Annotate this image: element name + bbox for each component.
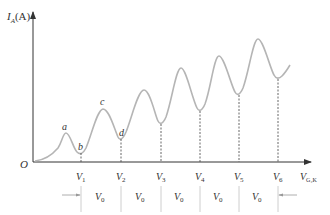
svg-text:V6: V6 bbox=[273, 171, 283, 184]
franck-hertz-chart: IA(A) O a b c d V1 V2 V3 V4 V5 V6 VG₂K bbox=[0, 0, 330, 215]
x-tick-labels: V1 V2 V3 V4 V5 V6 bbox=[76, 171, 283, 184]
svg-text:V4: V4 bbox=[195, 171, 205, 184]
origin-label: O bbox=[20, 158, 28, 170]
interval-labels: V0 V0 V0 V0 V0 bbox=[95, 191, 262, 204]
svg-text:V0: V0 bbox=[213, 191, 223, 204]
point-label-c: c bbox=[100, 96, 105, 107]
x-axis-label: VG₂K bbox=[300, 171, 318, 183]
y-axis-label: IA(A) bbox=[6, 10, 31, 25]
svg-text:V1: V1 bbox=[76, 171, 86, 184]
svg-text:V0: V0 bbox=[95, 191, 105, 204]
svg-text:V3: V3 bbox=[156, 171, 166, 184]
svg-text:V5: V5 bbox=[234, 171, 244, 184]
anode-current-curve bbox=[35, 39, 290, 161]
svg-text:V0: V0 bbox=[174, 191, 184, 204]
svg-text:V0: V0 bbox=[252, 191, 262, 204]
valley-drop-lines bbox=[81, 79, 278, 162]
svg-text:V0: V0 bbox=[135, 191, 145, 204]
point-label-b: b bbox=[78, 141, 83, 152]
point-label-a: a bbox=[62, 121, 67, 132]
svg-text:V2: V2 bbox=[116, 171, 126, 184]
